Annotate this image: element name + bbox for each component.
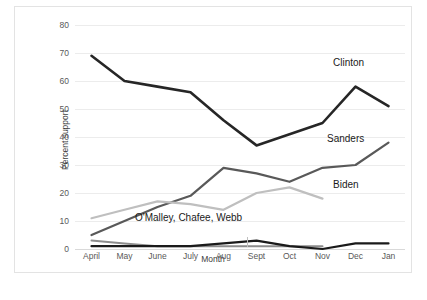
x-tick-june: June	[148, 251, 166, 261]
x-tick-july: July	[183, 251, 198, 261]
x-tick-jan: Jan	[382, 251, 396, 261]
y-tick-60: 60	[60, 76, 69, 86]
chart-container: Percent support Month 80 70 60 50 40 30 …	[14, 6, 412, 273]
y-tick-80: 80	[60, 20, 69, 30]
y-tick-30: 30	[60, 160, 69, 170]
y-tick-10: 10	[60, 216, 69, 226]
x-tick-sept: Sept	[248, 251, 266, 261]
x-tick-april: April	[83, 251, 100, 261]
x-axis-line	[75, 249, 405, 250]
y-tick-40: 40	[60, 132, 69, 142]
omalley-leader-line	[247, 237, 248, 247]
series-label-clinton: Clinton	[333, 57, 364, 68]
series-label-omalley-chafee-webb: O'Malley, Chafee, Webb	[135, 212, 242, 223]
series-label-sanders: Sanders	[327, 133, 364, 144]
x-tick-oct: Oct	[283, 251, 296, 261]
y-tick-0: 0	[64, 244, 69, 254]
series-line-clinton	[92, 56, 389, 146]
x-tick-nov: Nov	[315, 251, 330, 261]
y-tick-70: 70	[60, 48, 69, 58]
y-tick-20: 20	[60, 188, 69, 198]
x-tick-may: May	[116, 251, 132, 261]
x-tick-dec: Dec	[348, 251, 363, 261]
series-label-biden: Biden	[333, 179, 359, 190]
x-tick-aug: Aug	[216, 251, 231, 261]
y-tick-50: 50	[60, 104, 69, 114]
